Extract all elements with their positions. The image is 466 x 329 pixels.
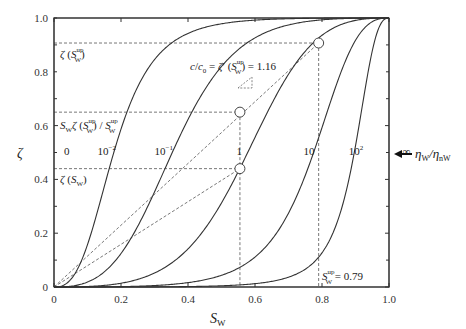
x-axis-title: SW [210, 311, 226, 328]
x-tick-label: 1.0 [382, 293, 396, 305]
x-tick-label: 0.2 [114, 293, 128, 305]
curve-label: 10−2 [98, 144, 117, 157]
marker-zeta-S-w-up [314, 38, 324, 48]
curve-label: ∞ [402, 145, 410, 157]
ticks: 00.20.40.60.81.000.20.40.60.81.0 [34, 12, 396, 305]
y-tick-label: 0.2 [34, 227, 48, 239]
y-tick-label: 0.4 [34, 173, 48, 185]
slope-triangle [238, 77, 252, 88]
curve-labels: 010−210−1110102∞ [64, 144, 410, 157]
curve-label: 10 [304, 145, 316, 157]
sw-up-label: SupW = 0.79 [322, 268, 364, 286]
sw-zeta-label: SWζ (SupW) / SupW [60, 117, 118, 135]
y-tick-label: 0.8 [34, 66, 48, 78]
marker-Sw-zeta-ratio [235, 107, 245, 117]
marker-zeta-S-w [235, 164, 245, 174]
x-tick-label: 0.6 [248, 293, 262, 305]
y-tick-label: 1.0 [34, 12, 48, 24]
curve-label: 102 [349, 144, 364, 157]
curve-label: 1 [237, 145, 243, 157]
slope-label: c/c0 = ζ′ (SupW) = 1.16 [190, 58, 277, 76]
x-tick-label: 0 [51, 293, 57, 305]
curve-label: 0 [64, 145, 70, 157]
y-axis-title: ζ [17, 146, 24, 161]
x-tick-label: 0.8 [315, 293, 329, 305]
y-tick-label: 0.6 [34, 120, 48, 132]
viscosity-ratio-label: ηW/ηnW [415, 146, 451, 163]
fractional-flow-chart: 00.20.40.60.81.000.20.40.60.81.0 010−210… [0, 0, 466, 329]
x-tick-label: 0.4 [181, 293, 195, 305]
zeta-up-label: ζ (SupW) [60, 46, 85, 64]
y-tick-label: 0 [43, 281, 49, 293]
zeta-sw-label: ζ (SW) [60, 173, 87, 188]
